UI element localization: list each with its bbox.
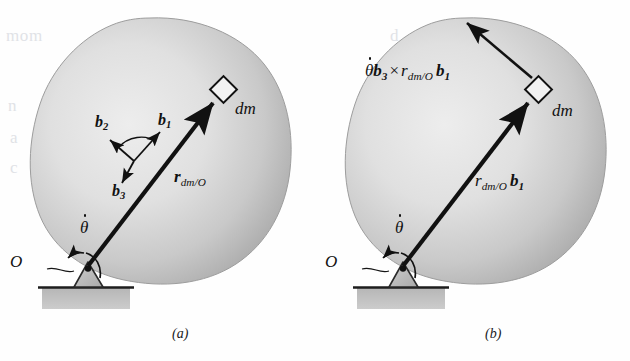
origin-leader-line (362, 268, 389, 271)
mass-element-label: dm (235, 100, 256, 117)
origin-leader-line (47, 268, 74, 271)
panel-b: O θ θb3×rdm/Ob1 rdm/Ob1 dm (b) (315, 0, 630, 361)
physics-figure: mom n a c d A (0, 0, 630, 361)
position-vector-label: rdm/Ob1 (475, 172, 524, 192)
origin-label: O (325, 253, 337, 270)
panel-a-caption: (a) (172, 326, 188, 342)
velocity-expression-label: θb3×rdm/Ob1 (365, 62, 450, 82)
theta-dot-label: θ (80, 219, 88, 236)
panel-b-graphics (315, 0, 630, 361)
panel-b-caption: (b) (485, 326, 501, 342)
ground-slab (357, 287, 445, 309)
position-vector-label: rdm/O (174, 168, 206, 188)
panel-a: O θ b2 b1 b3 rdm/O dm (a) (0, 0, 315, 361)
rigid-body-blob (30, 18, 291, 284)
theta-dot-label: θ (395, 219, 403, 236)
ground-slab (42, 287, 130, 309)
panel-a-graphics (0, 0, 315, 361)
mass-element-label: dm (552, 102, 573, 119)
basis-vector-b2-label: b2 (95, 114, 108, 133)
basis-vector-b1-label: b1 (158, 112, 171, 131)
origin-label: O (10, 253, 22, 270)
basis-vector-b3-label: b3 (112, 183, 125, 202)
rigid-body-blob (345, 18, 606, 284)
